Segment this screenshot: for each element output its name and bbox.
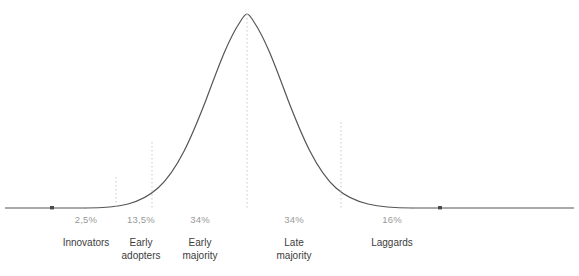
diffusion-of-innovation-chart: 2,5% 13,5% 34% 34% 16% Innovators Early … [0, 0, 579, 276]
bell-curve-path [86, 14, 412, 208]
segment-label-late-majority-line-1: Late [276, 236, 311, 249]
bell-curve-graphic [0, 0, 579, 276]
segment-label-laggards: Laggards [371, 236, 413, 249]
segment-label-early-adopters-line-1: Early [122, 236, 161, 249]
segment-label-innovators: Innovators [63, 236, 110, 249]
segment-label-innovators-line-1: Innovators [63, 236, 110, 249]
segment-label-early-majority: Early majority [182, 236, 217, 262]
percent-label-laggards: 16% [382, 214, 402, 225]
percent-label-innovators: 2,5% [75, 214, 97, 225]
segment-label-laggards-line-1: Laggards [371, 236, 413, 249]
segment-label-early-adopters-line-2: adopters [122, 249, 161, 262]
segment-label-late-majority-line-2: majority [276, 249, 311, 262]
segment-label-early-majority-line-1: Early [182, 236, 217, 249]
percent-label-early-majority: 34% [190, 214, 210, 225]
endpoint-marker-left [50, 206, 54, 209]
segment-label-early-majority-line-2: majority [182, 249, 217, 262]
segment-label-late-majority: Late majority [276, 236, 311, 262]
percent-label-early-adopters: 13,5% [127, 214, 155, 225]
endpoint-marker-right [438, 206, 442, 209]
segment-label-early-adopters: Early adopters [122, 236, 161, 262]
percent-label-late-majority: 34% [284, 214, 304, 225]
